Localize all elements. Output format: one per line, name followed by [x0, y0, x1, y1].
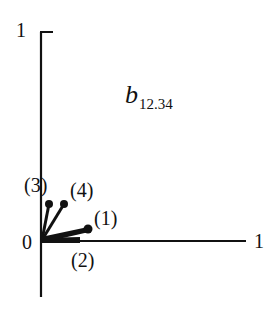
vector-1-label: (1)	[94, 208, 117, 228]
diagram-title: b12.34	[125, 80, 173, 113]
title-main: b	[125, 80, 138, 109]
origin-label: 0	[22, 232, 32, 252]
y-max-label: 1	[16, 20, 26, 40]
vector-plot	[0, 0, 273, 312]
title-subscript: 12.34	[139, 96, 173, 112]
vector-3-tip	[45, 200, 53, 208]
x-max-label: 1	[254, 231, 264, 251]
vector-1-tip	[84, 225, 93, 234]
vector-3-label: (3)	[24, 175, 47, 195]
vector-4-label: (4)	[70, 180, 93, 200]
vector-4-tip	[60, 200, 68, 208]
vector-2-label: (2)	[71, 250, 94, 270]
